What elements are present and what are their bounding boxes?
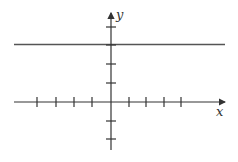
y-axis-label: y xyxy=(115,7,124,22)
x-axis-label: x xyxy=(216,104,224,119)
graph: x y xyxy=(0,0,238,162)
